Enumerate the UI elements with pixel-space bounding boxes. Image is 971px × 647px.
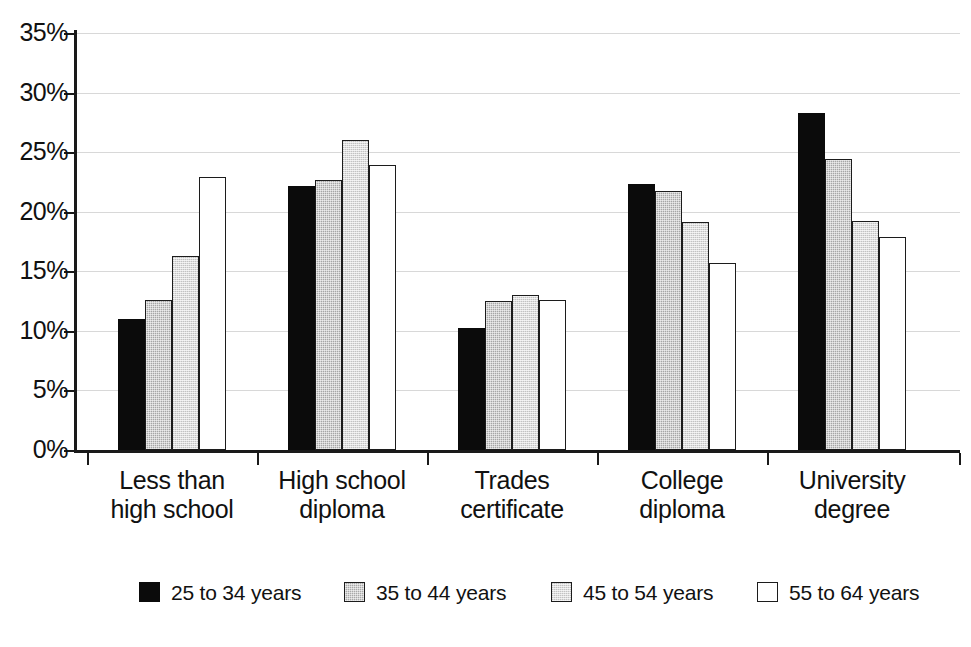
legend-item[interactable]: 25 to 34 years — [139, 578, 301, 606]
bar — [655, 191, 682, 450]
bar — [458, 328, 485, 450]
x-axis-tick — [597, 453, 599, 465]
x-axis-tick — [87, 453, 89, 465]
x-axis-tick — [427, 453, 429, 465]
bar-group — [798, 33, 906, 450]
x-axis-category-label-line: degree — [742, 495, 962, 524]
legend-swatch-icon — [757, 582, 778, 602]
x-axis-category-label: Universitydegree — [742, 466, 962, 524]
y-axis-tick-label: 30% — [4, 80, 68, 105]
bar — [825, 159, 852, 450]
bar — [682, 222, 709, 450]
bar — [199, 177, 226, 450]
bar-chart: 0%5%10%15%20%25%30%35% Less thanhigh sch… — [0, 0, 971, 647]
y-axis-tick-label: 5% — [4, 377, 68, 402]
bar — [118, 319, 145, 450]
legend-label: 45 to 54 years — [583, 582, 713, 603]
y-axis-tick-label: 35% — [4, 20, 68, 45]
legend-swatch-icon — [139, 582, 160, 602]
bar — [172, 256, 199, 450]
bar — [145, 300, 172, 450]
y-axis-tick-label: 15% — [4, 258, 68, 283]
plot-area — [74, 33, 960, 450]
x-axis-category-label-line: University — [742, 466, 962, 495]
bar — [315, 180, 342, 450]
bar — [798, 113, 825, 450]
x-axis-line — [74, 450, 960, 453]
legend-label: 25 to 34 years — [171, 582, 301, 603]
bar — [512, 295, 539, 450]
bar-group — [458, 33, 566, 450]
legend-swatch-icon — [344, 582, 365, 602]
legend-swatch-icon — [551, 582, 572, 602]
bar — [485, 301, 512, 450]
bar — [709, 263, 736, 450]
bar — [369, 165, 396, 450]
y-axis-tick-label: 10% — [4, 318, 68, 343]
x-axis-tick — [767, 453, 769, 465]
bar — [628, 184, 655, 450]
legend-item[interactable]: 35 to 44 years — [344, 578, 506, 606]
x-axis-tick — [257, 453, 259, 465]
bar — [539, 300, 566, 450]
y-axis-tick-label: 25% — [4, 139, 68, 164]
bar-group — [288, 33, 396, 450]
chart-legend: 25 to 34 years35 to 44 years45 to 54 yea… — [0, 578, 971, 608]
x-axis-tick — [959, 453, 961, 465]
legend-item[interactable]: 45 to 54 years — [551, 578, 713, 606]
bar-group — [118, 33, 226, 450]
bar — [342, 140, 369, 450]
bar — [852, 221, 879, 450]
legend-item[interactable]: 55 to 64 years — [757, 578, 919, 606]
bar-group — [628, 33, 736, 450]
y-axis-tick-label: 20% — [4, 199, 68, 224]
legend-label: 35 to 44 years — [376, 582, 506, 603]
y-axis-tick-label: 0% — [4, 437, 68, 462]
bar — [879, 237, 906, 450]
legend-label: 55 to 64 years — [789, 582, 919, 603]
bar — [288, 186, 315, 450]
